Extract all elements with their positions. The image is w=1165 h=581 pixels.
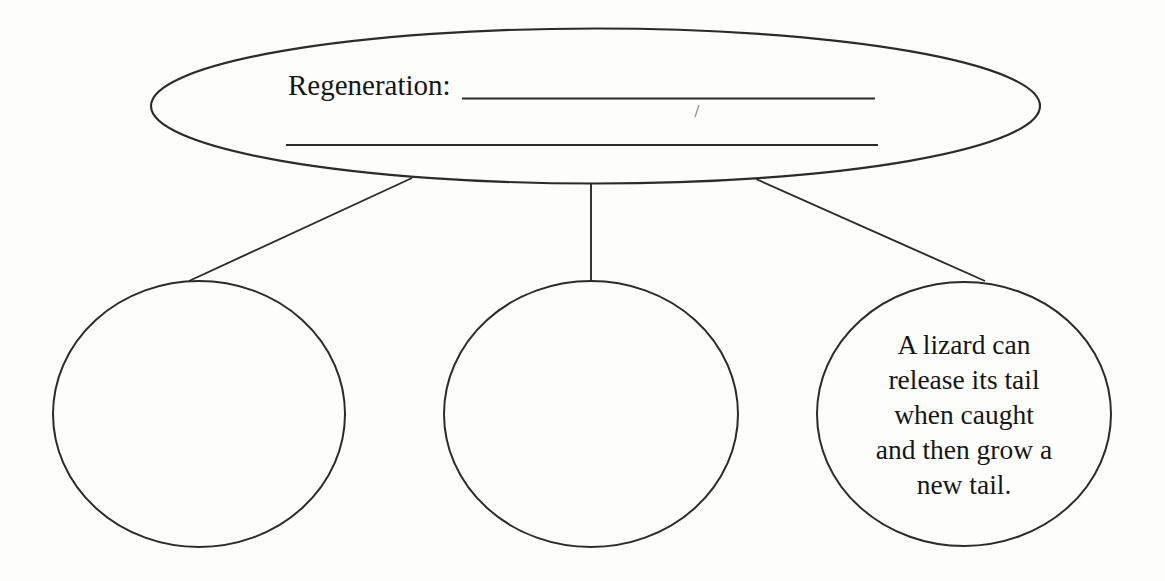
worksheet-page: Regeneration: A lizard can release its t… <box>0 0 1165 581</box>
middle-bubble <box>444 281 738 547</box>
right-bubble-line-1: A lizard can <box>876 327 1052 362</box>
right-bubble-line-3: when caught <box>876 397 1052 432</box>
connector-right <box>756 179 985 281</box>
connector-left <box>189 178 412 281</box>
scan-artifact-slash <box>695 105 699 117</box>
right-bubble-line-4: and then grow a <box>876 432 1052 467</box>
root-label: Regeneration: <box>288 71 451 100</box>
right-bubble-text-block: A lizard can release its tail when caugh… <box>876 327 1052 502</box>
right-bubble-line-5: new tail. <box>876 467 1052 502</box>
root-ellipse <box>151 29 1040 184</box>
right-bubble-text: A lizard can release its tail when caugh… <box>817 283 1111 546</box>
left-bubble <box>53 281 345 547</box>
right-bubble-line-2: release its tail <box>876 362 1052 397</box>
